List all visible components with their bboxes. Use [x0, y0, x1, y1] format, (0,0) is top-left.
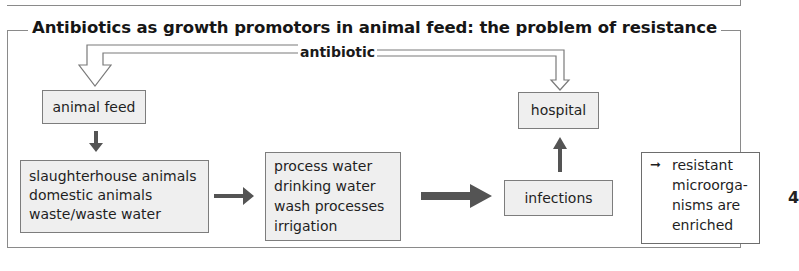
water-line: irrigation: [274, 216, 400, 236]
legend-line: microorga-: [672, 175, 748, 195]
water-line: drinking water: [274, 176, 400, 196]
animals-line: waste/waste water: [29, 205, 208, 224]
hospital-box: hospital: [518, 92, 599, 129]
legend-line: nisms are: [672, 195, 740, 215]
arrow-water-to-infections: [421, 184, 492, 208]
water-box: process water drinking water wash proces…: [265, 152, 401, 241]
arrow-infections-to-hospital: [553, 137, 567, 172]
infections-box: infections: [504, 180, 613, 216]
legend-line: enriched: [672, 215, 733, 235]
antibiotic-arrow-to-hospital: [374, 50, 569, 90]
page-marker: 4: [788, 188, 799, 207]
animals-line: domestic animals: [29, 186, 208, 205]
infections-label: infections: [524, 190, 592, 207]
hospital-label: hospital: [531, 102, 586, 119]
arrow-animals-to-water: [214, 187, 254, 205]
legend-box: ➞ resistant microorga- nisms are enriche…: [641, 152, 760, 244]
animal-feed-label: animal feed: [53, 99, 136, 116]
animals-box: slaughterhouse animals domestic animals …: [20, 160, 209, 233]
animals-line: slaughterhouse animals: [29, 167, 208, 186]
arrow-feed-to-animals: [89, 131, 103, 152]
legend-arrow-icon: ➞: [650, 155, 672, 175]
animal-feed-box: animal feed: [42, 90, 146, 124]
legend-line: resistant: [672, 155, 733, 175]
antibiotic-label: antibiotic: [298, 44, 377, 60]
water-line: wash processes: [274, 196, 400, 216]
water-line: process water: [274, 156, 400, 176]
